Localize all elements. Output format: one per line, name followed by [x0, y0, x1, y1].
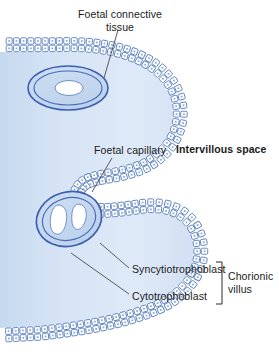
cell-nucleus — [23, 40, 25, 42]
cell-nucleus — [16, 40, 18, 42]
cell-nucleus — [44, 328, 46, 330]
cell-nucleus — [201, 233, 203, 235]
cell-nucleus — [158, 201, 160, 203]
cell-nucleus — [81, 179, 83, 181]
cell-nucleus — [52, 335, 54, 337]
cell-nucleus — [114, 213, 116, 215]
cell-nucleus — [204, 250, 206, 252]
cell-nucleus — [174, 98, 176, 100]
cell-nucleus — [115, 316, 117, 318]
cell-nucleus — [184, 210, 186, 212]
cell-nucleus — [176, 139, 178, 141]
cell-nucleus — [123, 176, 125, 178]
foetal-capillary-upper — [28, 66, 108, 110]
cell-nucleus — [151, 68, 153, 70]
cell-nucleus — [95, 49, 97, 51]
cell-nucleus — [95, 181, 97, 183]
cell-nucleus — [134, 203, 136, 205]
cell-nucleus — [186, 279, 188, 281]
cell-nucleus — [108, 179, 110, 181]
cell-nucleus — [51, 327, 53, 329]
label-foetal-capillary: Foetal capillary — [94, 144, 166, 157]
cell-nucleus — [58, 40, 60, 42]
cell-nucleus — [196, 250, 198, 252]
cell-nucleus — [176, 113, 178, 115]
cell-nucleus — [116, 177, 118, 179]
cell-nucleus — [114, 170, 116, 172]
cell-nucleus — [173, 212, 175, 214]
cell-nucleus — [94, 321, 96, 323]
cell-nucleus — [153, 164, 155, 166]
cell-nucleus — [113, 205, 115, 207]
cell-nucleus — [74, 332, 76, 334]
cell-nucleus — [119, 46, 121, 48]
cell-nucleus — [167, 305, 169, 307]
cell-nucleus — [146, 315, 148, 317]
capillary-lumen — [55, 81, 83, 96]
cell-nucleus — [129, 167, 131, 169]
cell-nucleus — [8, 48, 10, 50]
cell-nucleus — [88, 329, 90, 331]
cell-nucleus — [197, 224, 199, 226]
cell-nucleus — [183, 104, 185, 106]
cell-nucleus — [30, 48, 32, 50]
cell-nucleus — [72, 324, 74, 326]
cell-nucleus — [44, 40, 46, 42]
cell-nucleus — [136, 164, 138, 166]
cell-nucleus — [74, 189, 76, 191]
cell-nucleus — [150, 209, 152, 211]
cell-nucleus — [124, 321, 126, 323]
cell-nucleus — [149, 158, 151, 160]
cell-nucleus — [107, 213, 109, 215]
cell-nucleus — [158, 209, 160, 211]
cell-nucleus — [176, 206, 178, 208]
cell-nucleus — [15, 330, 17, 332]
cell-nucleus — [100, 173, 102, 175]
cell-nucleus — [58, 326, 60, 328]
cell-nucleus — [66, 333, 68, 335]
cell-nucleus — [160, 159, 162, 161]
cell-nucleus — [45, 336, 47, 338]
cell-nucleus — [120, 205, 122, 207]
cell-nucleus — [136, 310, 138, 312]
cell-nucleus — [81, 40, 83, 42]
cell-nucleus — [175, 105, 177, 107]
cell-nucleus — [160, 309, 162, 311]
cell-nucleus — [131, 57, 133, 59]
cell-nucleus — [143, 308, 145, 310]
label-foetal-connective-tissue: Foetal connective tissue — [46, 8, 194, 34]
cell-nucleus — [167, 203, 169, 205]
cell-nucleus — [8, 40, 10, 42]
cell-nucleus — [110, 325, 112, 327]
cell-nucleus — [131, 174, 133, 176]
cell-nucleus — [131, 319, 133, 321]
cell-nucleus — [121, 169, 123, 171]
cell-nucleus — [52, 40, 54, 42]
cell-nucleus — [37, 48, 39, 50]
cell-nucleus — [135, 210, 137, 212]
cell-nucleus — [95, 328, 97, 330]
cell-nucleus — [141, 54, 143, 56]
label-syncytiotrophoblast: Syncytiotrophoblast — [132, 263, 226, 276]
cell-nucleus — [180, 131, 182, 133]
cell-nucleus — [150, 201, 152, 203]
cell-nucleus — [143, 161, 145, 163]
cell-nucleus — [138, 171, 140, 173]
cell-nucleus — [80, 323, 82, 325]
cell-nucleus — [144, 64, 146, 66]
cell-nucleus — [166, 153, 168, 155]
cell-nucleus — [148, 57, 150, 59]
cell-nucleus — [107, 172, 109, 174]
cell-nucleus — [127, 204, 129, 206]
cell-nucleus — [59, 47, 61, 49]
cell-nucleus — [168, 73, 170, 75]
cell-nucleus — [146, 168, 148, 170]
cell-nucleus — [157, 73, 159, 75]
cell-nucleus — [138, 60, 140, 62]
cell-nucleus — [173, 128, 175, 130]
cell-nucleus — [170, 135, 172, 137]
cell-nucleus — [65, 325, 67, 327]
cell-nucleus — [73, 40, 75, 42]
cell-nucleus — [128, 211, 130, 213]
cell-nucleus — [52, 48, 54, 50]
